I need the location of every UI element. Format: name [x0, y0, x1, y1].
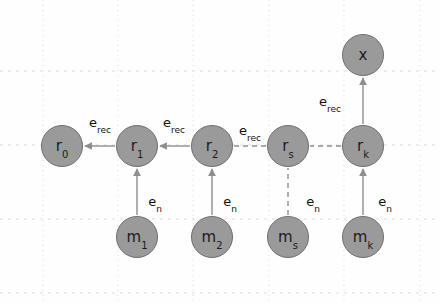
node-label-r0: r0	[56, 139, 69, 154]
node-r0[interactable]: r0	[41, 125, 83, 167]
node-rk[interactable]: rk	[342, 125, 384, 167]
node-label-rs: rs	[282, 139, 293, 154]
node-label-r2: r2	[206, 139, 219, 154]
node-r2[interactable]: r2	[191, 125, 233, 167]
node-label-m1: m1	[127, 230, 148, 245]
node-x[interactable]: x	[342, 34, 384, 76]
diagram-canvas: r0r1r2rsrkm1m2msmkx erecerecerecerecenen…	[0, 0, 440, 304]
node-ms[interactable]: ms	[267, 216, 309, 258]
node-m2[interactable]: m2	[191, 216, 233, 258]
node-r1[interactable]: r1	[116, 125, 158, 167]
node-label-ms: ms	[278, 230, 298, 245]
node-rs[interactable]: rs	[267, 125, 309, 167]
node-label-r1: r1	[131, 139, 144, 154]
node-label-mk: mk	[353, 230, 373, 245]
node-m1[interactable]: m1	[116, 216, 158, 258]
node-mk[interactable]: mk	[342, 216, 384, 258]
node-label-x: x	[359, 48, 368, 63]
node-label-m2: m2	[202, 230, 223, 245]
node-label-rk: rk	[357, 139, 369, 154]
